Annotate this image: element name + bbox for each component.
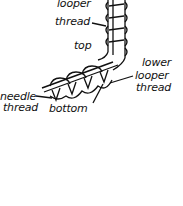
upper-looper-label-line1: looper	[57, 0, 91, 9]
upper-looper-label-line2: thread	[55, 16, 90, 27]
diagonal-stitch-row	[42, 62, 118, 100]
vertical-stitch-column	[106, 0, 127, 58]
top-label: top	[74, 40, 91, 51]
lower-looper-label-line1: lower	[142, 57, 171, 68]
leader-needle-thread	[36, 96, 52, 98]
bottom-label: bottom	[49, 103, 88, 114]
leader-lower-looper	[110, 76, 133, 83]
lower-looper-label-line3: thread	[136, 82, 171, 93]
leader-looper-thread	[92, 23, 106, 26]
needle-thread-label-line2: thread	[3, 102, 38, 113]
lower-looper-label-line2: looper	[135, 70, 169, 81]
